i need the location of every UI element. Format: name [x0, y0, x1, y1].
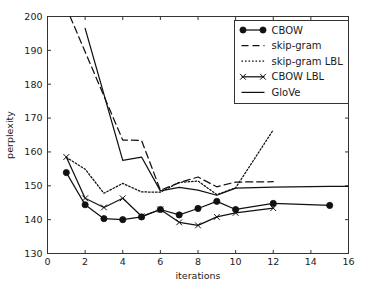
y-tick-label: 170: [24, 112, 42, 123]
y-tick-label: 160: [24, 146, 42, 157]
legend-label: skip-gram LBL: [272, 56, 344, 67]
series-cbow-lbl: [63, 154, 276, 228]
legend-label: skip-gram: [272, 40, 322, 51]
series-line: [66, 173, 329, 220]
data-point-marker: [233, 206, 239, 212]
chart-legend: CBOWskip-gramskip-gram LBLCBOW LBLGloVe: [235, 21, 349, 104]
data-point-marker: [120, 217, 126, 223]
data-point-marker: [82, 195, 88, 201]
data-point-marker: [176, 212, 182, 218]
y-tick-label: 200: [24, 11, 42, 22]
x-tick-label: 12: [267, 256, 279, 267]
y-axis-label: perplexity: [4, 111, 15, 159]
x-tick-label: 16: [342, 256, 354, 267]
legend-circle-marker: [260, 27, 266, 33]
legend-circle-marker: [240, 27, 246, 33]
chart-figure: 0246810121416130140150160170180190200ite…: [0, 0, 370, 290]
series-line: [66, 157, 273, 225]
x-tick-label: 14: [305, 256, 317, 267]
x-tick-label: 8: [195, 256, 201, 267]
x-tick-label: 6: [157, 256, 163, 267]
y-tick-label: 180: [24, 79, 42, 90]
data-point-marker: [101, 205, 107, 211]
y-tick-label: 190: [24, 45, 42, 56]
y-tick-label: 150: [24, 180, 42, 191]
legend-label: CBOW: [272, 25, 304, 36]
x-tick-label: 2: [82, 256, 88, 267]
data-point-marker: [120, 195, 126, 201]
x-tick-label: 10: [230, 256, 242, 267]
data-point-marker: [195, 205, 201, 211]
data-point-marker: [327, 202, 333, 208]
x-tick-label: 4: [120, 256, 126, 267]
y-tick-label: 130: [24, 248, 42, 259]
line-chart: 0246810121416130140150160170180190200ite…: [0, 0, 370, 290]
data-point-marker: [63, 169, 69, 175]
data-point-marker: [63, 154, 69, 160]
data-point-marker: [101, 216, 107, 222]
y-tick-label: 140: [24, 214, 42, 225]
series-line: [66, 130, 273, 195]
x-axis-label: iterations: [175, 270, 220, 281]
legend-label: GloVe: [272, 87, 301, 98]
data-point-marker: [214, 198, 220, 204]
series-skip-gram-lbl: [66, 130, 273, 195]
x-tick-label: 0: [44, 256, 50, 267]
legend-label: CBOW LBL: [272, 71, 325, 82]
data-point-marker: [82, 202, 88, 208]
